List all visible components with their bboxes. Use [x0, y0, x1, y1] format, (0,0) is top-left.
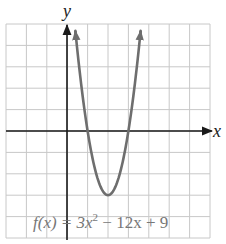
function-graph: y x f(x) = 3x2 − 12x + 9: [0, 0, 226, 244]
x-axis-label: x: [212, 121, 221, 141]
y-axis-label: y: [61, 1, 71, 21]
equation-main: f(x) = 3x: [33, 213, 93, 232]
equation-rest: − 12x + 9: [98, 213, 168, 232]
equation-label: f(x) = 3x2 − 12x + 9: [33, 211, 168, 232]
